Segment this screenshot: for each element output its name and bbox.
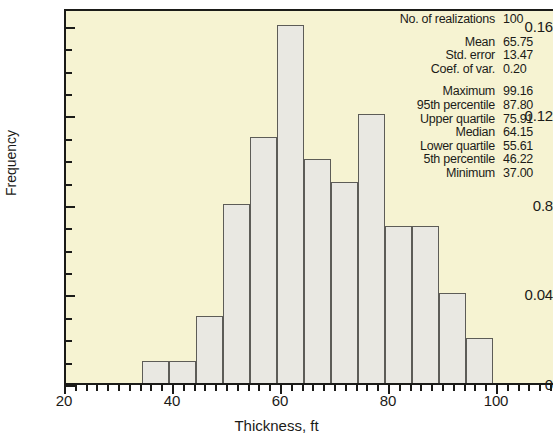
x-axis-minor-tick [226, 385, 228, 391]
statistic-value: 100 [495, 13, 545, 27]
y-axis-title: Frequency [3, 103, 19, 223]
x-axis-minor-tick [291, 385, 293, 391]
statistic-value: 37.00 [495, 167, 545, 181]
statistic-row: Coef. of var.0.20 [400, 63, 545, 77]
x-axis-minor-tick [518, 385, 520, 391]
histogram-bar [385, 226, 412, 383]
statistic-label: 5th percentile [423, 153, 495, 167]
y-axis-minor-tick [64, 161, 72, 163]
x-axis-minor-tick [528, 385, 530, 391]
x-axis-minor-tick [474, 385, 476, 391]
y-axis-tick-label: 0.04 [495, 286, 553, 303]
y-axis-tick-label: 0.8 [495, 197, 553, 214]
x-axis-minor-tick [204, 385, 206, 391]
statistic-label: Std. error [445, 49, 495, 63]
x-axis-minor-tick [96, 385, 98, 391]
x-axis-minor-tick [431, 385, 433, 391]
statistic-value: 13.47 [495, 49, 545, 63]
x-axis-minor-tick [248, 385, 250, 391]
x-axis-minor-tick [140, 385, 142, 391]
x-axis-minor-tick [442, 385, 444, 391]
x-axis-minor-tick [194, 385, 196, 391]
y-axis-minor-tick [64, 139, 72, 141]
histogram-bar [169, 361, 196, 383]
histogram-bar [331, 182, 358, 383]
histogram-bar [250, 137, 277, 383]
x-axis-minor-tick [377, 385, 379, 391]
x-axis-minor-tick [161, 385, 163, 391]
x-axis-minor-tick [410, 385, 412, 391]
statistic-label: Median [456, 126, 496, 140]
x-axis-tick-label: 40 [142, 392, 202, 409]
statistic-value: 87.80 [495, 99, 545, 113]
statistic-row: Minimum37.00 [400, 167, 545, 181]
y-axis-major-tick [64, 116, 75, 118]
x-axis-title: Thickness, ft [0, 417, 553, 434]
x-axis-minor-tick [215, 385, 217, 391]
x-axis-minor-tick [453, 385, 455, 391]
x-axis-minor-tick [420, 385, 422, 391]
histogram-bar [223, 204, 250, 383]
x-axis-tick-label: 20 [34, 392, 94, 409]
statistic-row: Mean65.75 [400, 36, 545, 50]
histogram-bar [304, 159, 331, 383]
statistic-row: Maximum99.16 [400, 85, 545, 99]
histogram-bar [466, 338, 493, 383]
statistic-row: Median64.15 [400, 126, 545, 140]
histogram-bar [439, 293, 466, 383]
statistic-label: Lower quartile [420, 140, 495, 154]
x-axis-tick-label: 60 [250, 392, 310, 409]
x-axis-minor-tick [345, 385, 347, 391]
x-axis-minor-tick [237, 385, 239, 391]
y-axis-minor-tick [64, 184, 72, 186]
statistic-row: 5th percentile46.22 [400, 153, 545, 167]
y-axis-major-tick [64, 27, 75, 29]
y-axis-minor-tick [64, 318, 72, 320]
x-axis-minor-tick [150, 385, 152, 391]
x-axis-minor-tick [356, 385, 358, 391]
y-axis-minor-tick [64, 273, 72, 275]
x-axis-minor-tick [75, 385, 77, 391]
statistic-value: 65.75 [495, 36, 545, 50]
statistic-value: 75.91 [495, 113, 545, 127]
y-axis-minor-tick [64, 363, 72, 365]
statistic-value: 99.16 [495, 85, 545, 99]
x-axis-minor-tick [539, 385, 541, 391]
y-axis-minor-tick [64, 228, 72, 230]
x-axis-minor-tick [129, 385, 131, 391]
x-axis-minor-tick [118, 385, 120, 391]
x-axis-minor-tick [399, 385, 401, 391]
x-axis-minor-tick [302, 385, 304, 391]
statistic-label: 95th percentile [417, 99, 495, 113]
statistic-row: 95th percentile87.80 [400, 99, 545, 113]
x-axis-minor-tick [86, 385, 88, 391]
statistic-row: Upper quartile75.91 [400, 113, 545, 127]
y-axis-tick-label: 0 [495, 376, 553, 393]
statistic-row: No. of realizations100 [400, 13, 545, 27]
statistic-row: Lower quartile55.61 [400, 140, 545, 154]
statistic-label: Coef. of var. [431, 63, 495, 77]
x-axis-tick-label: 80 [358, 392, 418, 409]
histogram-figure: 0.160.120.80.040 20406080100 Frequency T… [0, 0, 553, 441]
x-axis-minor-tick [269, 385, 271, 391]
x-axis-minor-tick [312, 385, 314, 391]
x-axis-tick-label: 100 [466, 392, 526, 409]
y-axis-minor-tick [64, 340, 72, 342]
statistic-label: Mean [465, 36, 495, 50]
x-axis-minor-tick [550, 385, 552, 391]
histogram-bar [412, 226, 439, 383]
x-axis-minor-tick [334, 385, 336, 391]
x-axis-minor-tick [507, 385, 509, 391]
x-axis-minor-tick [323, 385, 325, 391]
x-axis-minor-tick [485, 385, 487, 391]
statistic-label: Maximum [443, 85, 495, 99]
statistic-row: Std. error13.47 [400, 49, 545, 63]
y-axis-major-tick [64, 206, 75, 208]
y-axis-minor-tick [64, 49, 72, 51]
statistic-value: 46.22 [495, 153, 545, 167]
y-axis-major-tick [64, 295, 75, 297]
y-axis-minor-tick [64, 251, 72, 253]
x-axis-minor-tick [258, 385, 260, 391]
y-axis-minor-tick [64, 72, 72, 74]
statistic-value: 64.15 [495, 126, 545, 140]
